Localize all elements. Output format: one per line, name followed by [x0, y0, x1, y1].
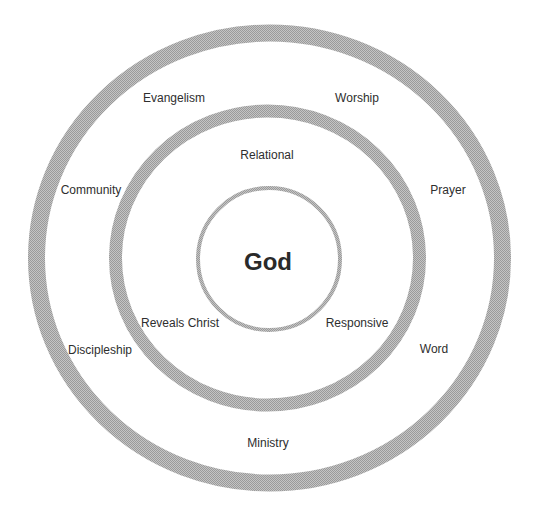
outer-label-discipleship: Discipleship	[68, 344, 132, 356]
outer-label-prayer: Prayer	[430, 184, 465, 196]
outer-label-community: Community	[61, 184, 122, 196]
inner-label-reveals-christ: Reveals Christ	[141, 317, 219, 329]
center-label-god: God	[244, 250, 292, 274]
outer-label-worship: Worship	[335, 92, 379, 104]
inner-label-relational: Relational	[240, 149, 293, 161]
outer-label-evangelism: Evangelism	[143, 92, 205, 104]
outer-label-ministry: Ministry	[247, 437, 288, 449]
outer-label-word: Word	[420, 343, 448, 355]
inner-label-responsive: Responsive	[326, 317, 389, 329]
